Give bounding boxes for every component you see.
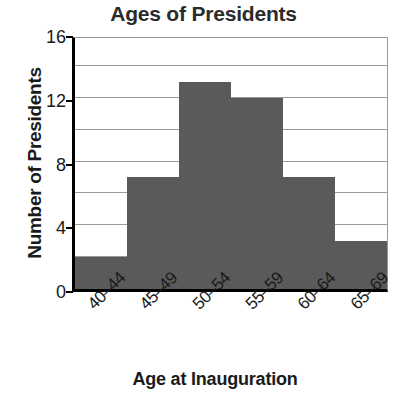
y-tick-mark (66, 291, 73, 293)
y-tick-label: 0 (30, 283, 66, 301)
y-tick-mark (66, 164, 73, 166)
bars-group (75, 38, 387, 289)
y-tick-label: 8 (30, 156, 66, 174)
y-tick-label: 12 (30, 92, 66, 110)
bar (231, 98, 283, 289)
plot-area (72, 37, 388, 292)
bar (179, 82, 231, 289)
y-tick-label: 4 (30, 219, 66, 237)
y-tick-mark (66, 227, 73, 229)
chart-title: Ages of Presidents (0, 2, 407, 26)
y-tick-mark (66, 100, 73, 102)
y-tick-label: 16 (30, 28, 66, 46)
x-axis-title: Age at Inauguration (40, 369, 390, 390)
y-tick-mark (66, 36, 73, 38)
plot-inner (75, 38, 387, 289)
histogram-figure: Ages of Presidents Number of Presidents … (0, 0, 407, 396)
